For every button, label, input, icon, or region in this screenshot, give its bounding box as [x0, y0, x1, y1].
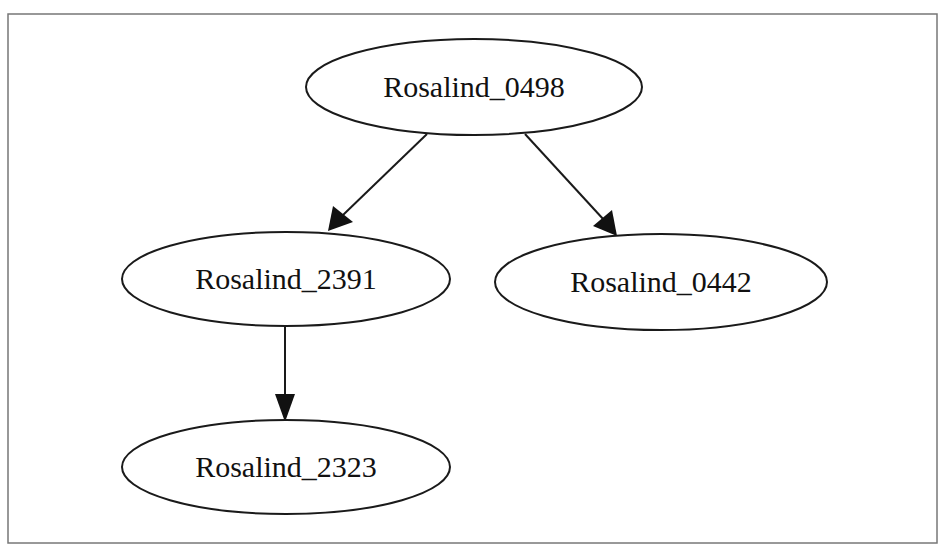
- node-rosalind-0498: Rosalind_0498: [306, 39, 642, 135]
- tree-diagram: Rosalind_0498 Rosalind_2391 Rosalind_044…: [0, 0, 947, 553]
- node-rosalind-2391: Rosalind_2391: [122, 232, 450, 326]
- node-rosalind-0442: Rosalind_0442: [495, 234, 827, 330]
- node-label: Rosalind_0442: [570, 265, 752, 298]
- node-label: Rosalind_2323: [195, 450, 377, 483]
- node-rosalind-2323: Rosalind_2323: [122, 420, 450, 514]
- node-label: Rosalind_2391: [195, 262, 377, 295]
- node-label: Rosalind_0498: [383, 70, 565, 103]
